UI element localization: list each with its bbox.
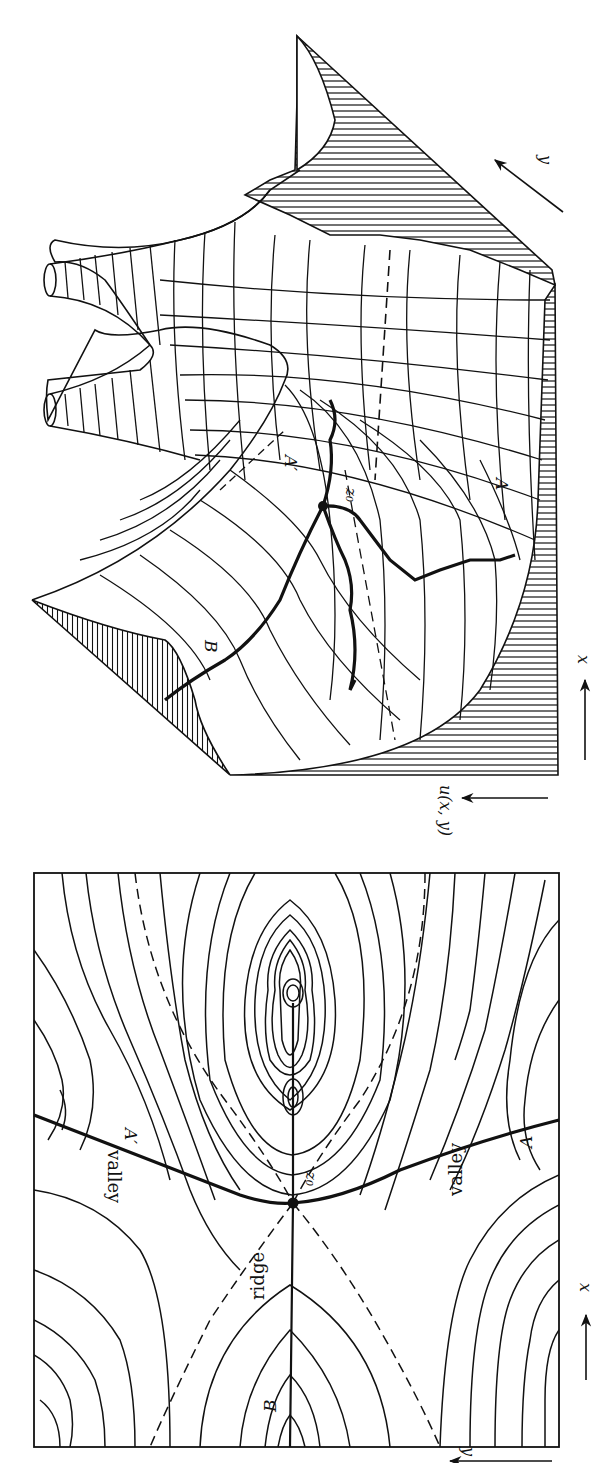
contour-label-b: B bbox=[260, 1400, 280, 1414]
surface-label-a: A bbox=[492, 476, 512, 490]
contour-axis-x-label: x bbox=[576, 1283, 595, 1292]
surface-label-z0: z₀ bbox=[342, 487, 360, 502]
contour-axis-y-label: y bbox=[459, 1446, 478, 1457]
surface-axis-u-label: u(x, y) bbox=[436, 785, 455, 836]
contour-label-valley-upper: valley bbox=[104, 1149, 125, 1204]
contour-label-a: A bbox=[516, 1136, 536, 1150]
surface-outline bbox=[32, 170, 300, 600]
contour-label-a-prime: A′ bbox=[121, 1126, 141, 1144]
tube-left bbox=[44, 264, 56, 296]
contour-label-ridge: ridge bbox=[247, 1252, 268, 1300]
surface-lower-grid bbox=[80, 385, 520, 760]
tube-right bbox=[44, 394, 56, 426]
surface-panel bbox=[32, 36, 558, 775]
figure-canvas: z₀ A A′ B y x u(x, y) bbox=[0, 0, 615, 1463]
contour-label-z0: z₀ bbox=[302, 1171, 320, 1186]
contour-saddle-point bbox=[288, 1198, 299, 1209]
surface-axis-x-label: x bbox=[574, 655, 593, 664]
surface-label-b: B bbox=[201, 639, 221, 653]
surface-axis-y-label: y bbox=[536, 154, 555, 165]
contour-ridge-line bbox=[290, 1003, 293, 1447]
contour-label-valley-lower: valley bbox=[445, 1142, 466, 1197]
surface-bottom-wall bbox=[230, 285, 558, 775]
surface-saddle-point bbox=[318, 501, 328, 511]
surface-left-wall bbox=[32, 600, 230, 775]
surface-path-a bbox=[323, 506, 355, 690]
surface-label-a-prime: A′ bbox=[281, 453, 301, 471]
surface-axis-y-arrow bbox=[495, 160, 563, 212]
surface-side-wall-right bbox=[245, 36, 555, 285]
